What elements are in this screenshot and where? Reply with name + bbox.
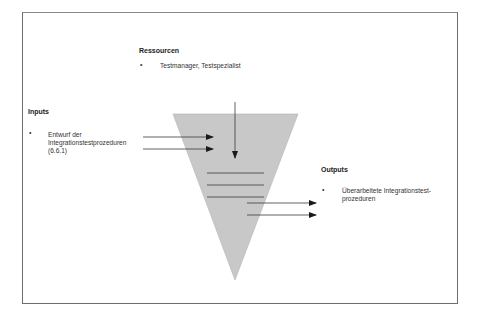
outputs-item-line-1: Überarbeitete Integrationstest- xyxy=(342,187,431,195)
inputs-item-line-2: Integrationstestprozeduren xyxy=(48,139,126,147)
resources-bullet: • xyxy=(140,61,142,68)
outputs-heading: Outputs xyxy=(321,166,348,173)
resources-item: Testmanager, Testspezialist xyxy=(160,62,241,70)
inputs-bullet: • xyxy=(29,129,31,136)
inputs-item-line-1: Entwurf der xyxy=(48,131,82,139)
inputs-item-line-3: (6.6.1) xyxy=(48,147,67,155)
resources-heading: Ressourcen xyxy=(139,47,179,54)
inputs-heading: Inputs xyxy=(28,108,49,115)
funnel-diagram xyxy=(0,0,478,321)
outputs-bullet: • xyxy=(322,186,324,193)
outputs-item-line-2: prozeduren xyxy=(342,195,375,203)
